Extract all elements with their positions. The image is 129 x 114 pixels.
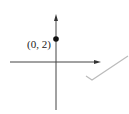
point-label: (0, 2)	[27, 38, 51, 51]
y-axis-arrow-icon	[54, 14, 58, 21]
y-intercept-point	[53, 36, 59, 42]
checkmark-icon	[86, 56, 128, 80]
x-axis-arrow-icon	[94, 60, 101, 64]
coordinate-diagram: (0, 2)	[0, 0, 129, 114]
